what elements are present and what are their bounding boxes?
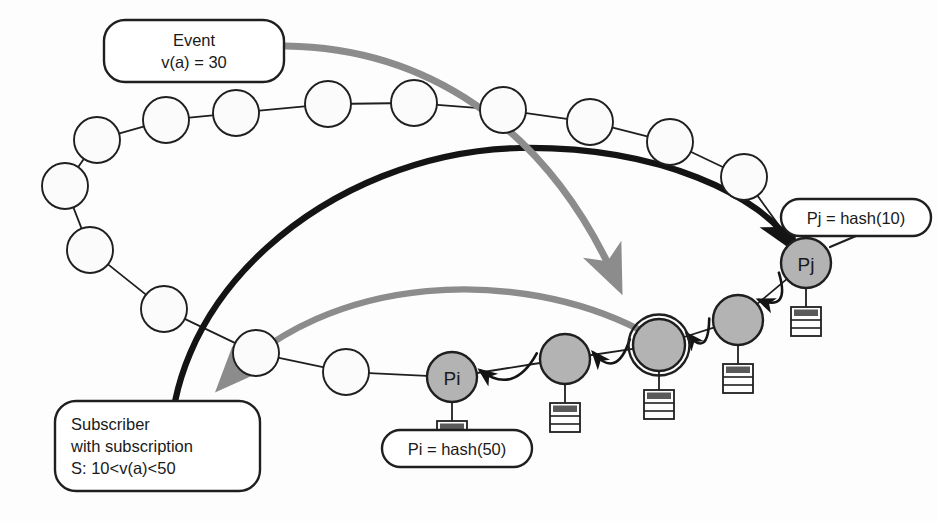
callout-leader <box>830 236 856 247</box>
ring-node[interactable] <box>67 227 113 273</box>
ring-node[interactable] <box>141 286 187 332</box>
diagram-svg: PjPi Eventv(a) = 30Subscriberwith subscr… <box>0 0 938 521</box>
diagram-canvas: PjPi Eventv(a) = 30Subscriberwith subscr… <box>0 0 938 521</box>
ring-node[interactable] <box>323 349 369 395</box>
ring-node[interactable] <box>567 99 613 145</box>
ring-edge <box>185 319 235 343</box>
server-icon <box>723 345 753 393</box>
server-icon <box>644 371 674 419</box>
ring-node[interactable] <box>74 117 120 163</box>
callout-line: Subscriber <box>71 415 150 433</box>
ring-node[interactable] <box>143 97 189 143</box>
ring-edge <box>259 106 304 110</box>
ring-node[interactable] <box>233 330 279 376</box>
pi-hash-callout[interactable]: Pi = hash(50) <box>382 430 532 467</box>
ring-node[interactable] <box>540 334 590 384</box>
callout-line: Pi = hash(50) <box>408 440 507 458</box>
callout-line: S: 10<v(a)<50 <box>71 459 176 477</box>
node-label: Pj <box>798 254 815 275</box>
ring-edge <box>108 265 145 295</box>
server-icon <box>791 288 821 336</box>
ring-nodes: PjPi <box>42 80 831 402</box>
ring-node[interactable] <box>713 295 763 345</box>
ring-edge <box>78 159 83 166</box>
ring-edge <box>526 113 566 119</box>
ring-node-pj[interactable]: Pj <box>781 238 831 288</box>
ring-edge <box>120 127 144 134</box>
callout-line: v(a) = 30 <box>161 53 227 71</box>
ring-edge <box>613 128 647 137</box>
callout-line: with subscription <box>70 437 193 455</box>
ring-node[interactable] <box>391 80 437 126</box>
ring-node[interactable] <box>629 315 690 376</box>
ring-edge <box>369 373 426 376</box>
ring-node[interactable] <box>42 163 88 209</box>
hop-arrow-n11-to-pi <box>480 353 536 379</box>
ring-edge <box>279 358 323 367</box>
hop-arrow-pj-to-n09 <box>759 273 782 303</box>
ring-node[interactable] <box>305 81 351 127</box>
server-icon <box>550 384 580 432</box>
subscriber-callout[interactable]: Subscriberwith subscriptionS: 10<v(a)<50 <box>55 401 260 491</box>
ring-edge <box>74 208 82 228</box>
server-icons <box>437 288 821 450</box>
ring-node[interactable] <box>721 154 767 200</box>
callout-line: Pj = hash(10) <box>807 209 906 227</box>
pj-hash-callout[interactable]: Pj = hash(10) <box>781 199 931 236</box>
ring-node[interactable] <box>647 119 693 165</box>
event-callout[interactable]: Eventv(a) = 30 <box>104 20 284 82</box>
ring-node[interactable] <box>213 90 259 136</box>
node-label: Pi <box>444 368 461 389</box>
ring-edge <box>189 115 212 117</box>
callout-line: Event <box>173 31 216 49</box>
ring-node[interactable] <box>480 87 526 133</box>
ring-edge <box>691 152 723 167</box>
ring-node-pi[interactable]: Pi <box>427 352 477 402</box>
